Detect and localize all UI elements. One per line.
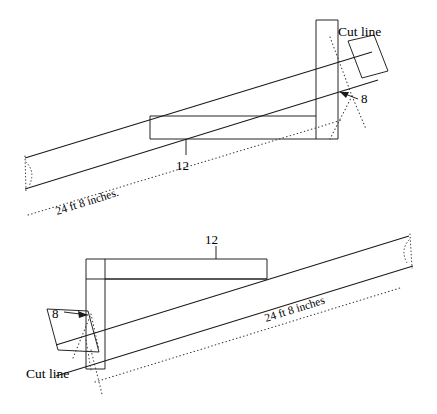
top-dotted-cut-a [330, 37, 352, 96]
top-cut-line-label: Cut line [338, 24, 381, 39]
bottom-beam-right-end [404, 234, 412, 268]
rafter-diagram-svg: 12 8 Cut line 24 ft 8 inches. [0, 0, 437, 414]
bottom-rise-label: 8 [52, 306, 59, 321]
bottom-beam-upper-edge [56, 236, 409, 345]
top-beam-outline [25, 52, 378, 189]
top-length-label: 24 ft 8 inches. [54, 186, 120, 217]
top-cut-flap-shape [348, 35, 388, 78]
bottom-cut-line-label: Cut line [26, 366, 69, 381]
bottom-figure: 12 8 Cut line 24 ft 8 inches [26, 232, 413, 394]
bottom-rise-dimension: 8 [52, 306, 88, 321]
top-run-label: 12 [176, 158, 189, 173]
top-figure: 12 8 Cut line 24 ft 8 inches. [25, 20, 388, 217]
bottom-right-end-arc [404, 240, 409, 263]
top-left-end-arc [26, 162, 32, 186]
bottom-dotted-baseline [95, 288, 400, 382]
bottom-run-label: 12 [205, 232, 218, 247]
top-square-tongue [316, 20, 338, 139]
bottom-right-end-dotted [410, 234, 412, 268]
bottom-beam-outline [56, 236, 413, 376]
bottom-rise-arrowhead [78, 311, 88, 318]
top-rise-label: 8 [361, 91, 368, 106]
top-beam-lower-edge [25, 80, 378, 189]
bottom-dotted-construction [73, 314, 102, 394]
top-left-end-dotted [25, 156, 26, 191]
bottom-beam-lower-edge [56, 266, 413, 376]
bottom-length-label: 24 ft 8 inches [263, 294, 327, 324]
top-cut-flap [348, 35, 388, 78]
diagram-canvas: 12 8 Cut line 24 ft 8 inches. [0, 0, 437, 414]
bottom-dotted-cut-c [91, 350, 102, 394]
top-run-dimension: 12 [176, 139, 189, 173]
bottom-square-blade [86, 259, 267, 279]
top-rise-dimension: 8 [340, 91, 368, 106]
top-dotted-construction [330, 37, 366, 139]
bottom-framing-square [86, 259, 267, 369]
top-beam-left-end [25, 156, 32, 191]
top-beam-upper-edge [25, 52, 372, 158]
top-dotted-cut-c [330, 96, 352, 139]
bottom-run-dimension: 12 [205, 232, 218, 259]
